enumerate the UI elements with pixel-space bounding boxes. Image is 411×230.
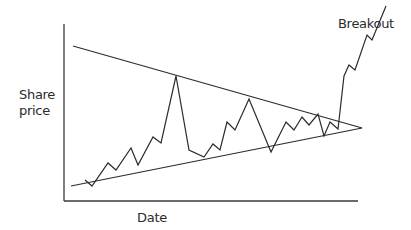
y-axis-label: Share price	[19, 87, 55, 119]
y-axis-label-line2: price	[19, 103, 55, 119]
triangle-pattern-chart	[0, 0, 411, 230]
share-price-line	[85, 6, 386, 186]
x-axis-label: Date	[137, 210, 167, 226]
breakout-annotation: Breakout	[338, 16, 394, 32]
y-axis-label-line1: Share	[19, 87, 55, 103]
lower-support-trendline	[71, 128, 362, 186]
